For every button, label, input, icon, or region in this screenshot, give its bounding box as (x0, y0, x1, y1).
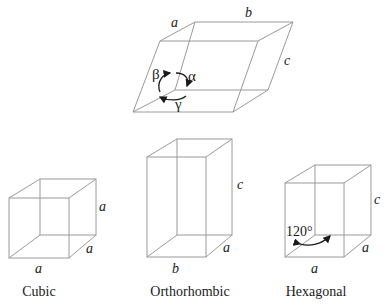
back-face (315, 165, 371, 235)
cubic-cell: a a a Cubic (9, 179, 106, 299)
edge-label-width: a (311, 261, 318, 276)
edge-label-depth: a (223, 240, 230, 255)
edge-label-c: c (284, 53, 291, 68)
angle-label-gamma: γ (174, 96, 182, 112)
edge-label-height: c (237, 177, 244, 192)
angle-label-120: 120° (286, 224, 313, 239)
edge-label-width: a (35, 261, 42, 276)
edge-label-a: a (171, 15, 178, 30)
caption-hexagonal: Hexagonal (286, 284, 347, 299)
edge-label-height: c (374, 192, 381, 207)
edge-label-depth: a (86, 241, 93, 256)
crystal-lattice-diagram: a b c β α γ a a a Cubic c a b Orthorhomb… (0, 0, 391, 305)
orthorhombic-cell: c a b Orthorhombic (147, 139, 244, 299)
edge-label-b: b (245, 5, 252, 20)
back-face (40, 179, 96, 235)
back-face (177, 139, 232, 235)
edge-label-depth: a (362, 240, 369, 255)
caption-orthorhombic: Orthorhombic (150, 284, 229, 299)
triclinic-unit-cell: a b c β α γ (133, 5, 293, 112)
caption-cubic: Cubic (22, 284, 55, 299)
hexagonal-cell: 120° c a a Hexagonal (285, 165, 381, 299)
edge-label-height: a (99, 199, 106, 214)
angle-label-alpha: α (188, 68, 196, 84)
edge-label-width: b (172, 261, 179, 276)
angle-label-beta: β (152, 66, 160, 82)
front-face (9, 198, 69, 258)
